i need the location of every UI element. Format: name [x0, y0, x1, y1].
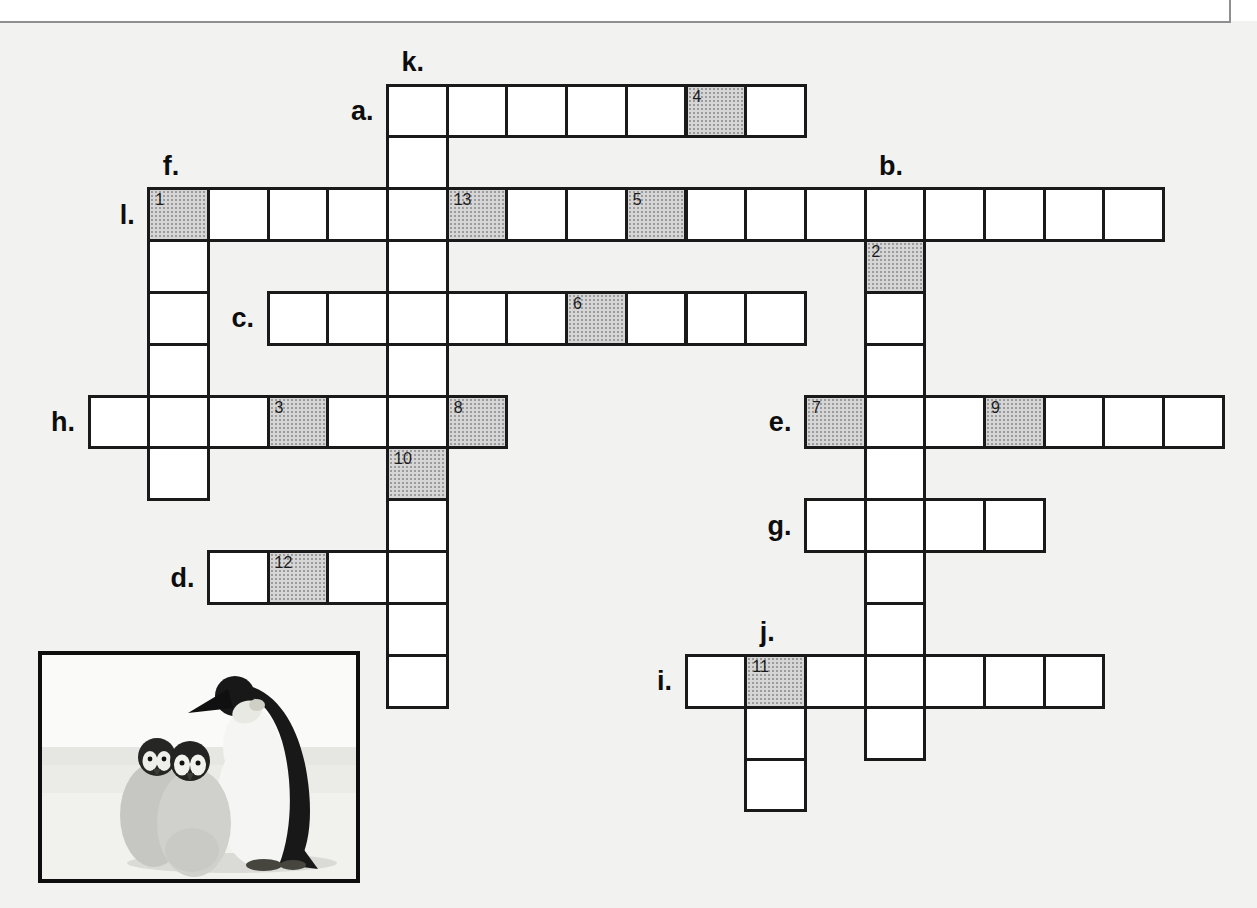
puzzle-cell[interactable] — [267, 187, 330, 242]
puzzle-cell[interactable] — [685, 654, 748, 709]
penguin-photo-art — [42, 655, 356, 879]
clue-number: 3 — [275, 399, 284, 417]
puzzle-cell[interactable] — [207, 395, 270, 450]
word-label-f: f. — [163, 152, 180, 180]
puzzle-cell[interactable] — [386, 239, 449, 294]
puzzle-cell[interactable] — [386, 84, 449, 139]
puzzle-cell[interactable] — [326, 395, 389, 450]
puzzle-cell[interactable] — [386, 602, 449, 657]
puzzle-cell[interactable] — [505, 84, 568, 139]
puzzle-cell[interactable] — [147, 395, 210, 450]
puzzle-cell[interactable] — [88, 395, 151, 450]
puzzle-cell-shaded[interactable]: 11 — [744, 654, 807, 709]
puzzle-cell[interactable] — [923, 395, 986, 450]
puzzle-cell[interactable] — [864, 446, 927, 501]
puzzle-cell[interactable] — [147, 446, 210, 501]
puzzle-cell[interactable] — [923, 654, 986, 709]
puzzle-cell-shaded[interactable]: 9 — [983, 395, 1046, 450]
puzzle-cell[interactable] — [625, 84, 688, 139]
clue-number: 1 — [155, 191, 164, 209]
puzzle-cell[interactable] — [625, 291, 688, 346]
puzzle-cell-shaded[interactable]: 12 — [267, 550, 330, 605]
puzzle-cell[interactable] — [864, 343, 927, 398]
word-label-k: k. — [402, 48, 425, 76]
puzzle-cell[interactable] — [685, 291, 748, 346]
clue-number: 13 — [454, 191, 472, 209]
puzzle-cell[interactable] — [326, 187, 389, 242]
puzzle-cell-shaded[interactable]: 13 — [446, 187, 509, 242]
puzzle-cell[interactable] — [207, 187, 270, 242]
puzzle-cell[interactable] — [685, 187, 748, 242]
puzzle-cell[interactable] — [983, 654, 1046, 709]
puzzle-cell-shaded[interactable]: 5 — [625, 187, 688, 242]
word-label-i: i. — [620, 667, 672, 695]
puzzle-cell[interactable] — [565, 84, 628, 139]
page-top-edge-corner — [1229, 0, 1231, 23]
puzzle-cell[interactable] — [326, 550, 389, 605]
puzzle-cell[interactable] — [446, 84, 509, 139]
puzzle-cell[interactable] — [1102, 395, 1165, 450]
puzzle-cell[interactable] — [983, 187, 1046, 242]
clue-number: 2 — [872, 243, 881, 261]
puzzle-cell-shaded[interactable]: 10 — [386, 446, 449, 501]
word-label-l: l. — [83, 201, 135, 229]
puzzle-cell[interactable] — [864, 550, 927, 605]
puzzle-cell[interactable] — [744, 84, 807, 139]
puzzle-cell[interactable] — [1043, 395, 1106, 450]
puzzle-cell[interactable] — [386, 291, 449, 346]
word-label-d: d. — [142, 564, 194, 592]
puzzle-cell[interactable] — [147, 239, 210, 294]
puzzle-cell[interactable] — [386, 343, 449, 398]
puzzle-cell[interactable] — [1043, 654, 1106, 709]
puzzle-cell[interactable] — [864, 654, 927, 709]
puzzle-cell-shaded[interactable]: 6 — [565, 291, 628, 346]
clue-number: 10 — [394, 450, 412, 468]
page-top-edge-line — [0, 21, 1231, 23]
puzzle-cell[interactable] — [744, 291, 807, 346]
puzzle-cell[interactable] — [804, 187, 867, 242]
puzzle-cell[interactable] — [864, 291, 927, 346]
puzzle-cell[interactable] — [565, 187, 628, 242]
puzzle-cell[interactable] — [386, 135, 449, 190]
puzzle-cell[interactable] — [804, 654, 867, 709]
puzzle-cell[interactable] — [207, 550, 270, 605]
puzzle-cell-shaded[interactable]: 7 — [804, 395, 867, 450]
clue-number: 12 — [275, 554, 293, 572]
puzzle-cell[interactable] — [923, 498, 986, 553]
puzzle-cell[interactable] — [864, 498, 927, 553]
puzzle-cell[interactable] — [864, 187, 927, 242]
puzzle-cell[interactable] — [147, 343, 210, 398]
puzzle-cell[interactable] — [1043, 187, 1106, 242]
puzzle-cell-shaded[interactable]: 1 — [147, 187, 210, 242]
puzzle-cell[interactable] — [923, 187, 986, 242]
puzzle-cell[interactable] — [864, 395, 927, 450]
puzzle-cell[interactable] — [864, 602, 927, 657]
puzzle-cell[interactable] — [804, 498, 867, 553]
puzzle-cell[interactable] — [983, 498, 1046, 553]
puzzle-cell[interactable] — [744, 706, 807, 761]
puzzle-cell[interactable] — [147, 291, 210, 346]
puzzle-cell[interactable] — [386, 654, 449, 709]
puzzle-cell[interactable] — [386, 187, 449, 242]
puzzle-cell-shaded[interactable]: 4 — [685, 84, 748, 139]
word-label-h: h. — [23, 408, 75, 436]
puzzle-cell[interactable] — [744, 758, 807, 813]
puzzle-cell[interactable] — [386, 395, 449, 450]
puzzle-cell[interactable] — [744, 187, 807, 242]
clue-number: 8 — [454, 399, 463, 417]
puzzle-cell-shaded[interactable]: 2 — [864, 239, 927, 294]
puzzle-cell[interactable] — [267, 291, 330, 346]
puzzle-cell[interactable] — [446, 291, 509, 346]
puzzle-cell[interactable] — [386, 550, 449, 605]
puzzle-cell[interactable] — [326, 291, 389, 346]
puzzle-cell[interactable] — [1162, 395, 1225, 450]
puzzle-cell-shaded[interactable]: 8 — [446, 395, 509, 450]
word-label-b: b. — [879, 152, 903, 180]
puzzle-cell[interactable] — [386, 498, 449, 553]
puzzle-cell[interactable] — [1102, 187, 1165, 242]
puzzle-cell[interactable] — [505, 187, 568, 242]
clue-number: 9 — [991, 399, 1000, 417]
puzzle-cell[interactable] — [505, 291, 568, 346]
puzzle-cell-shaded[interactable]: 3 — [267, 395, 330, 450]
puzzle-cell[interactable] — [864, 706, 927, 761]
